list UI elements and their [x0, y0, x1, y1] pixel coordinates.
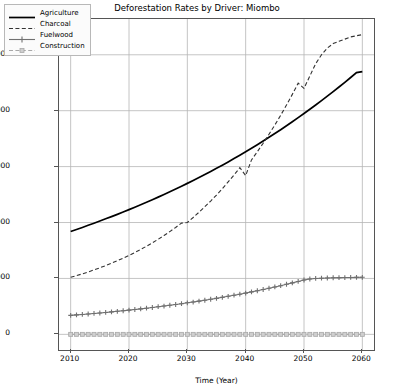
- x-tick-mark: [70, 349, 71, 353]
- legend-label: Fuelwood: [40, 30, 73, 41]
- series-marker-square: [203, 332, 207, 336]
- legend-swatch-icon: [8, 8, 36, 19]
- x-tick-label: 2030: [166, 354, 206, 363]
- series-marker-plus: [313, 276, 318, 281]
- series-marker-square: [104, 332, 108, 336]
- y-tick-mark: [54, 333, 58, 334]
- series-marker-plus: [150, 305, 155, 310]
- series-marker-square: [75, 332, 79, 336]
- series-marker-square: [244, 332, 248, 336]
- series-marker-square: [121, 332, 125, 336]
- y-tick-label: 5000: [0, 272, 10, 281]
- series-marker-square: [226, 332, 230, 336]
- series-marker-plus: [325, 276, 330, 281]
- legend-label: Construction: [40, 41, 85, 52]
- y-tick-mark: [54, 277, 58, 278]
- series-marker-plus: [80, 312, 85, 317]
- series-marker-plus: [197, 299, 202, 304]
- x-axis-label: Time (Year): [58, 376, 375, 385]
- series-marker-square: [69, 332, 73, 336]
- series-marker-square: [343, 332, 347, 336]
- series-marker-plus: [360, 275, 365, 280]
- x-tick-mark: [303, 349, 304, 353]
- series-lines: [68, 35, 364, 337]
- legend-label: Agriculture: [40, 8, 79, 19]
- series-marker-square: [255, 332, 259, 336]
- series-marker-square: [80, 332, 84, 336]
- y-tick-label: 20000: [0, 105, 10, 114]
- legend-swatch-icon: [8, 41, 36, 52]
- series-marker-square: [168, 332, 172, 336]
- series-marker-plus: [214, 296, 219, 301]
- series-marker-square: [285, 332, 289, 336]
- chart-figure: Deforestation Rates by Driver: Miombo He…: [0, 0, 394, 392]
- legend-item-charcoal: Charcoal: [8, 19, 85, 30]
- plot-area: [58, 18, 375, 351]
- series-marker-plus: [284, 282, 289, 287]
- series-marker-square: [325, 332, 329, 336]
- series-marker-square: [250, 332, 254, 336]
- series-marker-square: [314, 332, 318, 336]
- series-marker-square: [308, 332, 312, 336]
- series-marker-square: [86, 332, 90, 336]
- series-marker-square: [302, 332, 306, 336]
- series-marker-plus: [237, 292, 242, 297]
- series-marker-square: [320, 332, 324, 336]
- series-marker-square: [185, 332, 189, 336]
- series-marker-plus: [179, 301, 184, 306]
- legend-item-fuelwood: Fuelwood: [8, 30, 85, 41]
- legend-swatch-icon: [8, 19, 36, 30]
- series-marker-square: [209, 332, 213, 336]
- x-tick-mark: [245, 349, 246, 353]
- y-tick-label: 10000: [0, 217, 10, 226]
- series-marker-square: [296, 332, 300, 336]
- series-marker-square: [180, 332, 184, 336]
- series-marker-plus: [162, 304, 167, 309]
- series-marker-plus: [319, 276, 324, 281]
- series-marker-plus: [156, 304, 161, 309]
- series-marker-plus: [220, 295, 225, 300]
- series-marker-plus: [138, 306, 143, 311]
- series-marker-square: [331, 332, 335, 336]
- series-marker-plus: [296, 279, 301, 284]
- series-marker-plus: [167, 303, 172, 308]
- series-marker-square: [156, 332, 160, 336]
- plot-canvas: [59, 19, 374, 350]
- series-marker-square: [267, 332, 271, 336]
- legend-item-construction: Construction: [8, 41, 85, 52]
- legend-label: Charcoal: [40, 19, 71, 30]
- series-marker-plus: [115, 309, 120, 314]
- x-tick-label: 2010: [50, 354, 90, 363]
- y-tick-label: 15000: [0, 161, 10, 170]
- series-marker-plus: [191, 300, 196, 305]
- series-marker-plus: [144, 306, 149, 311]
- series-marker-square: [110, 332, 114, 336]
- series-marker-plus: [103, 310, 108, 315]
- series-marker-plus: [232, 293, 237, 298]
- series-marker-plus: [348, 275, 353, 280]
- chart-legend: AgricultureCharcoalFuelwoodConstruction: [4, 4, 91, 56]
- series-marker-square: [145, 332, 149, 336]
- series-marker-square: [279, 332, 283, 336]
- series-marker-plus: [243, 291, 248, 296]
- series-marker-square: [349, 332, 353, 336]
- series-line-charcoal: [71, 35, 363, 278]
- series-line-agriculture: [71, 72, 363, 232]
- y-tick-mark: [54, 222, 58, 223]
- series-marker-square: [162, 332, 166, 336]
- series-marker-square: [127, 332, 131, 336]
- series-marker-plus: [307, 277, 312, 282]
- series-marker-plus: [342, 275, 347, 280]
- series-marker-square: [261, 332, 265, 336]
- x-tick-mark: [186, 349, 187, 353]
- series-marker-plus: [331, 275, 336, 280]
- series-marker-plus: [127, 308, 132, 313]
- series-marker-square: [232, 332, 236, 336]
- series-marker-square: [215, 332, 219, 336]
- series-marker-square: [273, 332, 277, 336]
- series-marker-plus: [92, 311, 97, 316]
- series-marker-square: [115, 332, 119, 336]
- series-marker-square: [197, 332, 201, 336]
- x-tick-label: 2020: [108, 354, 148, 363]
- y-tick-label: 0: [0, 328, 10, 337]
